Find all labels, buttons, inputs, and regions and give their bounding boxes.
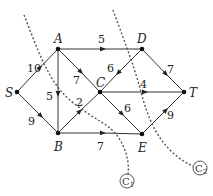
node-b [56,131,61,136]
label-t: T [189,86,198,100]
node-c [98,90,103,95]
node-a [56,47,61,52]
label-b: B [53,140,63,154]
edge-c-e [100,92,142,134]
weight-s-a: 10 [27,62,41,75]
label-e: E [137,141,147,155]
weight-a-b: 5 [46,90,53,103]
weight-e-t: 9 [167,109,174,122]
weight-b-e: 7 [97,140,104,153]
node-s [15,90,20,95]
weight-c-e: 6 [124,102,131,115]
edge-e-t [142,92,184,134]
node-e [140,132,145,137]
weight-b-c: 2 [76,96,83,109]
node-d [140,47,145,52]
weight-s-b: 9 [28,115,35,128]
flow-network-diagram: C1 C2 S A B C D E T 10 9 5 7 5 2 7 6 7 4… [0,0,213,196]
label-c: C [96,76,105,90]
node-t [182,90,187,95]
label-d: D [136,32,147,46]
label-a: A [53,32,63,46]
cut-c2-curve [113,10,193,166]
weight-a-c: 7 [73,74,80,87]
edge-d-t [142,49,184,92]
weight-a-d: 5 [98,33,105,46]
weight-c-t: 4 [140,78,147,91]
cut-c1-curve [24,15,128,174]
edge-b-e [58,133,142,134]
weight-d-t: 7 [167,63,174,76]
label-s: S [5,86,13,100]
weight-d-c: 6 [107,62,114,75]
